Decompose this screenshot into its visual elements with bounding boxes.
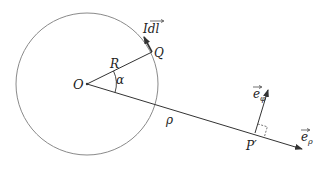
label-origin: O: [73, 77, 84, 92]
origin-dot: [86, 83, 88, 85]
label-field-point: P′: [245, 139, 257, 153]
svg-text:Idl: Idl: [142, 22, 159, 36]
label-alpha: α: [116, 73, 124, 87]
label-e-phi: e φ: [253, 86, 266, 104]
right-angle-marker: [258, 124, 268, 136]
svg-text:φ: φ: [260, 94, 266, 103]
rho-line: [87, 84, 302, 149]
label-current-element: Idl: [142, 20, 164, 37]
label-e-rho: e ρ: [301, 129, 313, 147]
loop-diagram: O R Q α ρ P′ Idl e φ e ρ: [0, 0, 325, 169]
label-point-q: Q: [154, 46, 164, 60]
label-rho: ρ: [165, 113, 173, 127]
label-radius: R: [109, 57, 119, 71]
current-element-arrow: [144, 37, 152, 52]
svg-text:ρ: ρ: [307, 137, 313, 146]
